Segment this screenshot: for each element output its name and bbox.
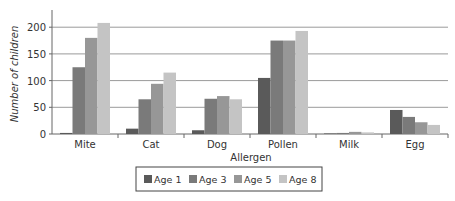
legend-swatch [144, 175, 152, 183]
bar [60, 133, 73, 134]
bar [337, 133, 350, 134]
x-tick-label: Milk [339, 139, 359, 150]
bar [324, 133, 337, 134]
bar [428, 125, 441, 134]
x-tick-label: Mite [74, 139, 95, 150]
x-tick-label: Pollen [268, 139, 298, 150]
legend-swatch [279, 175, 287, 183]
bar [192, 130, 205, 134]
legend-swatch [189, 175, 197, 183]
bar [217, 96, 230, 134]
legend-label: Age 5 [244, 174, 271, 185]
bar [126, 129, 139, 134]
legend-swatch [234, 175, 242, 183]
y-tick-label: 50 [33, 102, 46, 113]
bar [415, 122, 428, 134]
bar [98, 23, 111, 134]
bar [164, 73, 177, 134]
y-tick-label: 200 [27, 22, 46, 33]
y-tick-label: 150 [27, 49, 46, 60]
bar-chart: 050100150200MiteCatDogPollenMilkEggNumbe… [0, 0, 455, 201]
x-tick-label: Dog [207, 139, 227, 150]
bar [205, 99, 218, 134]
legend-label: Age 8 [289, 174, 316, 185]
bar [390, 110, 403, 134]
bar [230, 99, 243, 134]
bar [403, 117, 416, 134]
bar [283, 41, 296, 134]
bar [258, 78, 271, 134]
x-axis-label: Allergen [230, 152, 271, 163]
x-tick-label: Cat [142, 139, 159, 150]
bar [85, 38, 98, 134]
y-tick-label: 0 [40, 129, 46, 140]
bar [271, 41, 284, 134]
y-tick-label: 100 [27, 76, 46, 87]
chart-root: 050100150200MiteCatDogPollenMilkEggNumbe… [0, 0, 455, 201]
x-tick-label: Egg [405, 139, 424, 150]
bar [73, 67, 86, 134]
bar [362, 132, 375, 134]
bar [151, 84, 164, 134]
bar [296, 31, 309, 134]
bar [139, 99, 152, 134]
legend-label: Age 3 [199, 174, 226, 185]
legend-label: Age 1 [154, 174, 181, 185]
bar [349, 132, 362, 134]
y-axis-label: Number of children [9, 26, 20, 123]
